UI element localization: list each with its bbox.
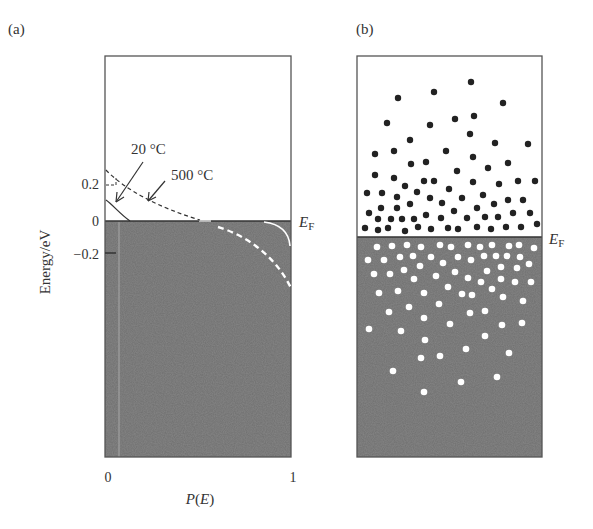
panel-b-band-texture [357,237,542,457]
panel-b: (b) [356,21,564,457]
panel-a: (a) 20 °C 500 ° [8,21,314,508]
annotation-20c: 20 °C [131,141,166,157]
y-axis-label: Energy/eV [37,229,53,294]
x-tick-label: 1 [290,470,297,485]
panel-a-label: (a) [8,21,25,38]
x-axis-label: P)(E) [185,491,214,508]
panel-b-label: (b) [356,21,374,38]
y-tick-label: 0.2 [82,177,100,192]
fermi-level-label-a: EF [298,214,314,232]
y-tick-label: 0 [92,214,99,229]
y-tick-label: −0.2 [74,247,99,262]
annotation-500c: 500 °C [171,167,213,183]
panel-a-band-texture [105,221,291,457]
figure: (a) 20 °C 500 ° [0,0,593,529]
fermi-level-label-b: EF [548,231,564,249]
x-tick-label: 0 [105,470,112,485]
